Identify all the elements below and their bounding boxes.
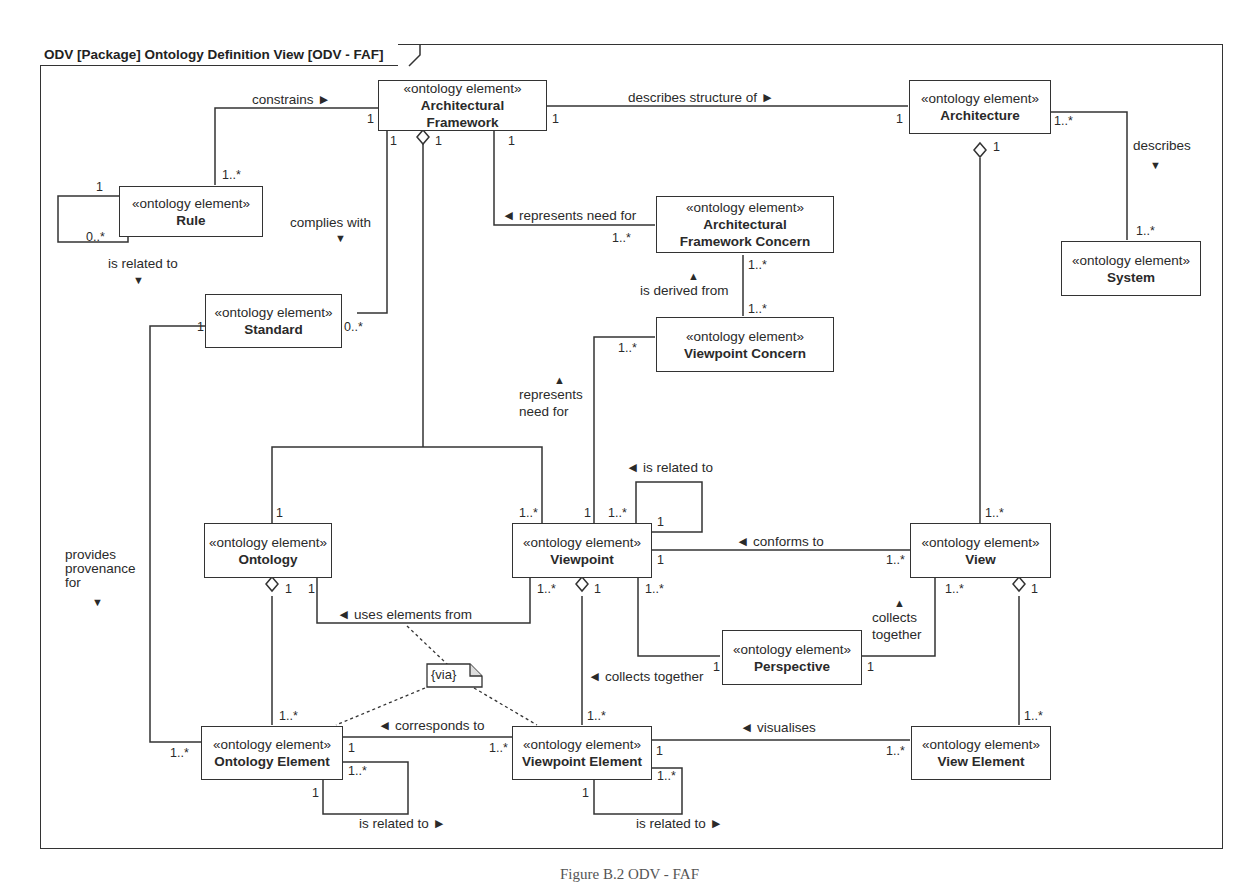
multiplicity: 1 bbox=[1031, 582, 1038, 596]
block-name: Architectural bbox=[703, 216, 786, 233]
block-name: Framework Concern bbox=[680, 233, 811, 250]
block-viewpoint-concern[interactable]: «ontology element» Viewpoint Concern bbox=[656, 317, 834, 372]
block-architecture[interactable]: «ontology element» Architecture bbox=[909, 80, 1051, 134]
multiplicity: 1..* bbox=[886, 553, 905, 567]
multiplicity: 1..* bbox=[608, 506, 627, 520]
block-name: Viewpoint Element bbox=[522, 753, 642, 770]
block-name: Viewpoint Concern bbox=[684, 345, 806, 362]
multiplicity: 1..* bbox=[886, 744, 905, 758]
stereotype-label: «ontology element» bbox=[215, 304, 333, 321]
multiplicity: 1 bbox=[656, 744, 663, 758]
block-standard[interactable]: «ontology element» Standard bbox=[205, 294, 342, 348]
label-vpe-is-related-to: is related to ► bbox=[636, 816, 723, 832]
multiplicity: 1 bbox=[276, 506, 283, 520]
label-uses-elements-from: ◄ uses elements from bbox=[337, 607, 472, 623]
block-name: Ontology Element bbox=[214, 753, 330, 770]
label-collects-together-perspective: collects bbox=[872, 610, 917, 626]
block-name: Architectural bbox=[421, 97, 504, 114]
multiplicity: 1 bbox=[657, 515, 664, 529]
label-rule-is-related-to: is related to bbox=[108, 256, 178, 272]
multiplicity: 1..* bbox=[170, 746, 189, 760]
multiplicity: 1..* bbox=[222, 168, 241, 182]
multiplicity: 1 bbox=[508, 134, 515, 148]
label-represents-need-for-vp: represents bbox=[519, 387, 583, 403]
multiplicity: 1..* bbox=[1054, 114, 1073, 128]
multiplicity: 1 bbox=[312, 786, 319, 800]
label-collects-together-vpe: ◄ collects together bbox=[588, 669, 703, 685]
multiplicity: 1..* bbox=[657, 769, 676, 783]
block-name: View bbox=[965, 551, 996, 568]
multiplicity: 1..* bbox=[489, 741, 508, 755]
block-viewpoint-element[interactable]: «ontology element» Viewpoint Element bbox=[512, 726, 652, 780]
multiplicity: 1..* bbox=[985, 506, 1004, 520]
block-rule[interactable]: «ontology element» Rule bbox=[119, 186, 263, 237]
block-name: Perspective bbox=[754, 658, 830, 675]
stereotype-label: «ontology element» bbox=[523, 736, 641, 753]
arrow-down-icon: ▼ bbox=[1150, 157, 1161, 173]
multiplicity: 0..* bbox=[86, 230, 105, 244]
arrow-up-icon: ▲ bbox=[554, 372, 565, 388]
arrow-down-icon: ▼ bbox=[92, 594, 103, 610]
multiplicity: 1 bbox=[584, 506, 591, 520]
arrow-down-icon: ▼ bbox=[133, 272, 144, 288]
multiplicity: 1 bbox=[285, 582, 292, 596]
label-provides-provenance: for bbox=[65, 575, 81, 591]
multiplicity: 1 bbox=[552, 112, 559, 126]
label-visualises: ◄ visualises bbox=[740, 720, 816, 736]
multiplicity: 1..* bbox=[279, 709, 298, 723]
stereotype-label: «ontology element» bbox=[686, 328, 804, 345]
multiplicity: 1..* bbox=[748, 258, 767, 272]
block-ontology-element[interactable]: «ontology element» Ontology Element bbox=[201, 726, 343, 780]
block-name: Rule bbox=[176, 212, 205, 229]
label-describes: describes bbox=[1133, 138, 1191, 154]
multiplicity: 1 bbox=[348, 741, 355, 755]
block-viewpoint[interactable]: «ontology element» Viewpoint bbox=[512, 523, 652, 578]
multiplicity: 1 bbox=[867, 660, 874, 674]
block-name: System bbox=[1107, 269, 1155, 286]
block-name: Ontology bbox=[238, 551, 297, 568]
label-is-derived-from: is derived from bbox=[640, 283, 729, 299]
stereotype-label: «ontology element» bbox=[132, 195, 250, 212]
multiplicity: 1 bbox=[713, 660, 720, 674]
via-constraint-note: {via} bbox=[431, 667, 456, 683]
label-constrains: constrains ► bbox=[252, 92, 331, 108]
multiplicity: 1 bbox=[308, 582, 315, 596]
block-architectural-framework[interactable]: «ontology element» Architectural Framewo… bbox=[378, 80, 547, 131]
stereotype-label: «ontology element» bbox=[1072, 252, 1190, 269]
stereotype-label: «ontology element» bbox=[404, 80, 522, 97]
label-represents-need-for-af: ◄ represents need for bbox=[502, 208, 636, 224]
stereotype-label: «ontology element» bbox=[209, 534, 327, 551]
multiplicity: 1 bbox=[582, 786, 589, 800]
multiplicity: 1 bbox=[197, 320, 204, 334]
multiplicity: 1..* bbox=[945, 582, 964, 596]
multiplicity: 1 bbox=[435, 134, 442, 148]
label-corresponds-to: ◄ corresponds to bbox=[378, 718, 484, 734]
figure-caption: Figure B.2 ODV - FAF bbox=[0, 866, 1259, 882]
block-view[interactable]: «ontology element» View bbox=[910, 523, 1051, 578]
multiplicity: 0..* bbox=[344, 320, 363, 334]
label-complies-with: complies with bbox=[290, 215, 371, 231]
block-name: Standard bbox=[244, 321, 303, 338]
block-view-element[interactable]: «ontology element» View Element bbox=[911, 726, 1051, 780]
label-collects-together-perspective: together bbox=[872, 627, 922, 643]
multiplicity: 1 bbox=[657, 553, 664, 567]
block-system[interactable]: «ontology element» System bbox=[1061, 241, 1201, 296]
label-conforms-to: ◄ conforms to bbox=[736, 534, 824, 550]
multiplicity: 1 bbox=[390, 134, 397, 148]
multiplicity: 1..* bbox=[587, 709, 606, 723]
stereotype-label: «ontology element» bbox=[921, 90, 1039, 107]
multiplicity: 1..* bbox=[537, 582, 556, 596]
block-af-concern[interactable]: «ontology element» Architectural Framewo… bbox=[656, 196, 834, 253]
multiplicity: 1..* bbox=[618, 341, 637, 355]
label-oe-is-related-to: is related to ► bbox=[359, 816, 446, 832]
block-name: Framework bbox=[426, 114, 498, 131]
block-name: Architecture bbox=[940, 107, 1020, 124]
multiplicity: 1 bbox=[96, 180, 103, 194]
label-describes-structure-of: describes structure of ► bbox=[628, 90, 774, 106]
multiplicity: 1..* bbox=[348, 764, 367, 778]
block-ontology[interactable]: «ontology element» Ontology bbox=[204, 523, 332, 578]
block-perspective[interactable]: «ontology element» Perspective bbox=[722, 630, 862, 685]
stereotype-label: «ontology element» bbox=[922, 534, 1040, 551]
stereotype-label: «ontology element» bbox=[213, 736, 331, 753]
multiplicity: 1 bbox=[993, 140, 1000, 154]
